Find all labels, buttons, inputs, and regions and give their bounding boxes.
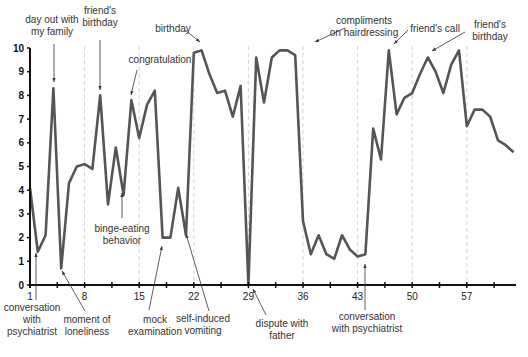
annotation-label: on hairdressing — [330, 27, 398, 38]
x-tick-label: 22 — [188, 291, 200, 302]
annotation-arrow — [253, 289, 266, 315]
annotation: binge-eatingbehavior — [94, 193, 149, 246]
annotation: birthday — [155, 23, 200, 42]
arrowhead-icon — [52, 78, 55, 82]
mood-line — [30, 50, 514, 285]
annotation-label: day out with — [25, 14, 78, 25]
x-tick-label: 43 — [352, 291, 364, 302]
x-tick-label: 8 — [82, 291, 88, 302]
arrowhead-icon — [253, 289, 256, 293]
x-tick-label: 50 — [407, 291, 419, 302]
annotation: day out withmy family — [25, 14, 78, 82]
annotation-label: with — [22, 314, 41, 325]
annotation: friend'sbirthday — [82, 5, 118, 90]
annotation-label: self-induced — [176, 313, 230, 324]
annotation-label: mock — [143, 314, 168, 325]
y-tick-label: 3 — [18, 208, 24, 219]
y-tick-label: 10 — [13, 43, 25, 54]
x-tick-label: 36 — [297, 291, 309, 302]
y-tick-label: 8 — [18, 90, 24, 101]
y-tick-label: 5 — [18, 161, 24, 172]
annotation-label: binge-eating — [94, 223, 149, 234]
annotation-label: my family — [31, 26, 73, 37]
arrowhead-icon — [363, 264, 366, 268]
annotation-label: friend's — [84, 5, 116, 16]
y-tick-label: 0 — [18, 280, 24, 291]
x-tick-label: 57 — [461, 291, 473, 302]
annotations: day out withmy familyfriend'sbirthdaycon… — [4, 5, 508, 341]
annotation: congratulation — [129, 54, 192, 95]
annotation: moment ofloneliness — [62, 271, 111, 337]
y-tick-label: 7 — [18, 114, 24, 125]
annotation-arrow — [432, 32, 465, 51]
y-tick-label: 2 — [18, 232, 24, 243]
arrowhead-icon — [432, 48, 436, 51]
annotation-label: with psychiatrist — [331, 323, 403, 334]
annotation-label: examination — [128, 326, 182, 337]
y-tick-label: 6 — [18, 137, 24, 148]
annotation-label: friend's call — [410, 23, 460, 34]
annotation-label: vomiting — [184, 325, 221, 336]
arrowhead-icon — [315, 39, 319, 42]
arrowhead-icon — [160, 246, 163, 250]
x-tick-label: 1 — [27, 291, 33, 302]
annotation-label: loneliness — [65, 326, 109, 337]
data-series — [30, 50, 514, 285]
annotation-label: behavior — [103, 235, 142, 246]
arrowhead-icon — [98, 86, 101, 90]
annotation-label: conversation — [4, 302, 61, 313]
annotation-label: moment of — [63, 314, 110, 325]
y-tick-label: 1 — [18, 256, 24, 267]
mood-line-chart: 0123456789101815222936435057 day out wit… — [0, 0, 528, 357]
x-tick-label: 15 — [134, 291, 146, 302]
arrowhead-icon — [34, 253, 37, 257]
annotation-label: friend's — [474, 19, 506, 30]
annotation-arrow — [149, 246, 162, 310]
y-tick-label: 4 — [18, 185, 24, 196]
annotation: conversationwith psychiatrist — [331, 264, 403, 334]
x-tick-label: 29 — [243, 291, 255, 302]
annotation-label: dispute with — [256, 318, 309, 329]
y-tick-label: 9 — [18, 66, 24, 77]
annotation-label: conversation — [339, 311, 396, 322]
annotation-label: compliments — [336, 15, 392, 26]
annotation: complimentson hairdressing — [315, 15, 398, 42]
grid-lines — [85, 46, 467, 285]
arrowhead-icon — [62, 271, 65, 275]
annotation-label: father — [269, 330, 295, 341]
annotation-label: birthday — [472, 31, 508, 42]
annotation-label: birthday — [155, 23, 191, 34]
annotation-label: psychiatrist — [7, 326, 57, 337]
annotation-label: birthday — [82, 17, 118, 28]
annotation-label: congratulation — [129, 54, 192, 65]
